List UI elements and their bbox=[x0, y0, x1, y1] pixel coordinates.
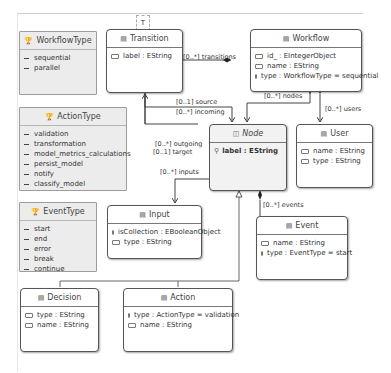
enum-literal[interactable]: notify bbox=[24, 169, 122, 179]
literal-text: notify bbox=[34, 170, 54, 178]
enum-icon: 🏆 bbox=[45, 113, 54, 121]
attribute-text: name : EString bbox=[37, 320, 89, 330]
class-name: Action bbox=[170, 293, 195, 302]
class-icon: ▤ bbox=[161, 294, 168, 302]
attribute[interactable]: name : EString bbox=[261, 238, 343, 248]
ref-label-users[interactable]: [0..*] users bbox=[325, 105, 361, 113]
class-event[interactable]: ▤ Event name : EString type : EventType … bbox=[256, 216, 348, 280]
attribute[interactable]: type : EventType = start bbox=[261, 248, 343, 258]
enum-literal[interactable]: sequential bbox=[24, 53, 92, 63]
class-input[interactable]: ▤ Input isCollection : EBooleanObject ty… bbox=[107, 205, 202, 259]
attribute-text: type : EString bbox=[124, 237, 172, 247]
enum-literal[interactable]: classify_model bbox=[24, 179, 122, 189]
class-header: ◫ Node bbox=[210, 125, 286, 143]
attribute-icon bbox=[261, 251, 263, 256]
attribute[interactable]: isCollection : EBooleanObject bbox=[112, 227, 197, 237]
attribute-text: type : EString bbox=[313, 156, 361, 166]
attribute-icon bbox=[255, 74, 257, 79]
attribute-text: name : EString bbox=[313, 146, 365, 156]
class-action[interactable]: ▤ Action type : ActionType = validation … bbox=[123, 288, 233, 352]
attribute-text: name : EString bbox=[273, 238, 325, 248]
attribute-icon bbox=[255, 64, 263, 69]
ref-label-incoming[interactable]: [0..*] incoming bbox=[176, 108, 225, 116]
class-node[interactable]: ◫ Node ⚲label : EString bbox=[209, 124, 287, 191]
enum-literal[interactable]: model_metrics_calculations bbox=[24, 149, 122, 159]
literal-icon bbox=[24, 184, 29, 185]
attribute-icon bbox=[112, 230, 114, 235]
enum-literal[interactable]: transformation bbox=[24, 139, 122, 149]
enum-name: EventType bbox=[43, 207, 84, 216]
class-icon: ▤ bbox=[321, 130, 328, 138]
attribute-icon bbox=[111, 54, 119, 59]
id-key-icon: ⚲ bbox=[214, 146, 219, 156]
attribute-icon bbox=[128, 313, 130, 318]
literal-text: persist_model bbox=[34, 160, 83, 168]
literal-text: sequential bbox=[34, 54, 71, 62]
attribute-icon bbox=[112, 240, 120, 245]
attribute-text: type : EventType = start bbox=[267, 248, 352, 258]
ref-label-outgoing[interactable]: [0..*] outgoing bbox=[155, 140, 202, 148]
class-transition[interactable]: ▤ Transition label : EString bbox=[106, 29, 183, 93]
class-header: ▤ Workflow bbox=[251, 30, 361, 48]
literal-icon bbox=[24, 134, 29, 135]
attribute[interactable]: type : EString bbox=[25, 310, 94, 320]
attribute[interactable]: name : EString bbox=[128, 320, 228, 330]
enum-name: WorkflowType bbox=[36, 36, 91, 45]
literal-icon bbox=[24, 249, 29, 250]
attribute-icon bbox=[301, 149, 309, 154]
attribute-text: name : EString bbox=[140, 320, 192, 330]
class-header: ▤ Action bbox=[124, 289, 232, 307]
ref-label-nodes[interactable]: [0..*] nodes bbox=[264, 92, 302, 100]
attribute[interactable]: name : EString bbox=[255, 61, 357, 71]
literal-icon bbox=[24, 164, 29, 165]
literal-text: parallel bbox=[34, 64, 60, 72]
enum-workflowtype[interactable]: 🏆 WorkflowType sequential parallel bbox=[19, 31, 97, 95]
class-header: ▤ User bbox=[297, 125, 372, 143]
literal-text: transformation bbox=[34, 140, 86, 148]
enum-header: 🏆 ActionType bbox=[20, 108, 126, 126]
literal-icon bbox=[24, 58, 29, 59]
attribute[interactable]: name : EString bbox=[301, 146, 368, 156]
literal-text: end bbox=[34, 235, 47, 243]
attribute[interactable]: label : EString bbox=[111, 51, 178, 61]
enum-literal[interactable]: start bbox=[24, 224, 92, 234]
enum-literal[interactable]: parallel bbox=[24, 63, 92, 73]
enum-eventtype[interactable]: 🏆 EventType start end error break contin… bbox=[19, 202, 97, 272]
literal-text: error bbox=[34, 245, 51, 253]
literal-text: model_metrics_calculations bbox=[34, 150, 131, 158]
attribute[interactable]: name : EString bbox=[25, 320, 94, 330]
ref-label-transitions[interactable]: [0..*] transitions bbox=[183, 53, 236, 61]
enum-literal[interactable]: validation bbox=[24, 129, 122, 139]
class-workflow[interactable]: ▤ Workflow id_ : EIntegerObject name : E… bbox=[250, 29, 362, 92]
attribute[interactable]: type : EString bbox=[112, 237, 197, 247]
enum-literal[interactable]: persist_model bbox=[24, 159, 122, 169]
enum-literal[interactable]: continue bbox=[24, 264, 92, 274]
attribute[interactable]: type : EString bbox=[301, 156, 368, 166]
class-user[interactable]: ▤ User name : EString type : EString bbox=[296, 124, 373, 188]
class-name: Decision bbox=[47, 293, 81, 302]
enum-literal[interactable]: break bbox=[24, 254, 92, 264]
attribute[interactable]: ⚲label : EString bbox=[214, 146, 282, 156]
ref-label-events[interactable]: [0..*] events bbox=[263, 201, 304, 209]
enum-actiontype[interactable]: 🏆 ActionType validation transformation m… bbox=[19, 107, 127, 191]
enum-literal[interactable]: end bbox=[24, 234, 92, 244]
class-decision[interactable]: ▤ Decision type : EString name : EString bbox=[20, 288, 99, 352]
literal-icon bbox=[24, 269, 29, 270]
class-icon: ▤ bbox=[283, 35, 290, 43]
class-header: ▤ Event bbox=[257, 217, 347, 235]
attribute-text: id_ : EIntegerObject bbox=[267, 51, 336, 61]
attribute-text: type : EString bbox=[37, 310, 85, 320]
attribute[interactable]: type : ActionType = validation bbox=[128, 310, 228, 320]
attribute[interactable]: type : WorkflowType = sequential bbox=[255, 71, 357, 81]
literal-text: break bbox=[34, 255, 54, 263]
ref-label-source[interactable]: [0..1] source bbox=[176, 98, 217, 106]
enum-literal[interactable]: error bbox=[24, 244, 92, 254]
literal-icon bbox=[24, 239, 29, 240]
literal-text: start bbox=[34, 225, 50, 233]
class-name: User bbox=[330, 129, 348, 138]
attribute[interactable]: id_ : EIntegerObject bbox=[255, 51, 357, 61]
ref-label-inputs[interactable]: [0..*] inputs bbox=[160, 168, 199, 176]
ref-label-target[interactable]: [0..1] target bbox=[153, 148, 192, 156]
class-icon: ▤ bbox=[286, 222, 293, 230]
literal-icon bbox=[24, 259, 29, 260]
